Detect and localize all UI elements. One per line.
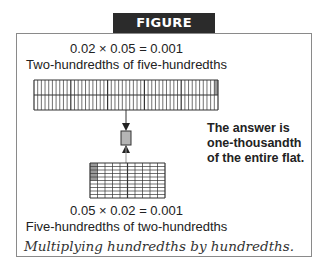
- figure-caption: Multiplying hundredths by hundredths.: [24, 238, 294, 254]
- bottom-label: Five-hundredths of two-hundredths: [0, 219, 253, 234]
- product-box: [121, 131, 131, 145]
- bottom-equation: 0.05 × 0.02 = 0.001: [0, 203, 253, 218]
- bottom-flat-grid: [90, 163, 165, 198]
- connector: [121, 110, 131, 163]
- answer-line-1: The answer is: [207, 121, 304, 136]
- arrow-down-icon: [122, 123, 130, 131]
- answer-note: The answer is one-thousandth of the enti…: [207, 121, 304, 166]
- answer-line-3: of the entire flat.: [207, 151, 304, 166]
- top-strip-grid: [34, 80, 218, 110]
- answer-line-2: one-thousandth: [207, 136, 304, 151]
